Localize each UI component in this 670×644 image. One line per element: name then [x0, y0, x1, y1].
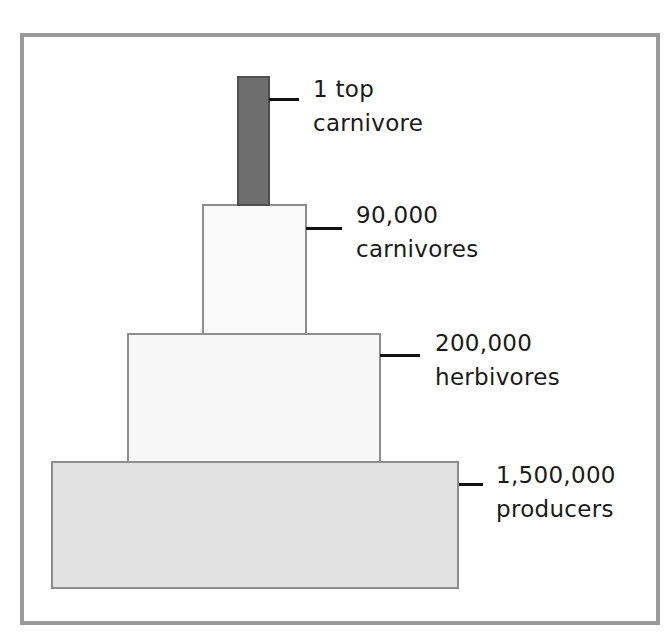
carnivores-tier — [202, 204, 307, 335]
herbivores-tier — [127, 333, 381, 463]
carnivores-leader-line — [306, 227, 342, 230]
top-carnivore-name: carnivore — [313, 106, 423, 140]
herbivores-label: 200,000 herbivores — [435, 326, 560, 394]
producers-tier — [51, 461, 459, 589]
producers-label: 1,500,000 producers — [496, 458, 616, 526]
top-carnivore-label: 1 top carnivore — [313, 72, 423, 140]
carnivores-label: 90,000 carnivores — [356, 198, 479, 266]
top-carnivore-tier — [237, 76, 270, 206]
herbivores-name: herbivores — [435, 360, 560, 394]
top-carnivore-count: 1 top — [313, 72, 423, 106]
producers-name: producers — [496, 492, 616, 526]
carnivores-count: 90,000 — [356, 198, 479, 232]
producers-count: 1,500,000 — [496, 458, 616, 492]
top-carnivore-leader-line — [269, 98, 299, 101]
producers-leader-line — [459, 483, 483, 486]
herbivores-leader-line — [380, 354, 420, 357]
carnivores-name: carnivores — [356, 232, 479, 266]
herbivores-count: 200,000 — [435, 326, 560, 360]
